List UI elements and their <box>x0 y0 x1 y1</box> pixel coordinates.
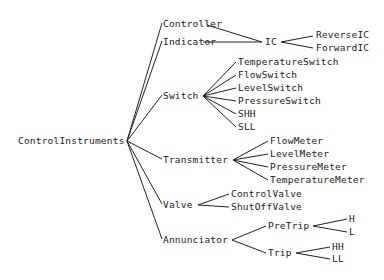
node-l: L <box>349 226 355 237</box>
node-valve: Valve <box>163 199 193 210</box>
edge-trip-ll <box>296 253 330 259</box>
diagram-canvas: ControlInstruments ControllerIndicatorSw… <box>0 0 384 280</box>
node-levelmeter: LevelMeter <box>270 148 329 159</box>
node-pretrip: PreTrip <box>268 220 310 231</box>
node-sll: SLL <box>238 121 256 132</box>
node-pressuremeter: PressureMeter <box>270 161 347 172</box>
node-forwardic: ForwardIC <box>316 42 369 53</box>
node-indicator: Indicator <box>163 36 216 47</box>
edge-switch-levelswitch <box>203 88 236 96</box>
node-levelswitch: LevelSwitch <box>238 82 303 93</box>
node-ll: LL <box>332 253 344 264</box>
node-switch: Switch <box>163 90 199 101</box>
tree-diagram: ControlInstruments ControllerIndicatorSw… <box>0 0 384 280</box>
node-transmitter: Transmitter <box>163 154 228 165</box>
node-temperatureswitch: TemperatureSwitch <box>238 56 339 67</box>
node-shutoffvalve: ShutOffValve <box>231 201 302 212</box>
node-hh: HH <box>332 241 344 252</box>
edge-annunciator-trip <box>232 240 266 253</box>
node-trip: Trip <box>268 247 292 258</box>
edge-ic-forwardic <box>281 42 313 48</box>
node-pressureswitch: PressureSwitch <box>238 95 321 106</box>
node-controller: Controller <box>163 18 222 29</box>
node-controlvalve: ControlValve <box>231 188 302 199</box>
node-annunciator: Annunciator <box>163 234 228 245</box>
edge-pretrip-l <box>313 226 347 232</box>
edge-valve-shutoffvalve <box>198 205 229 207</box>
edge-annunciator-pretrip <box>232 226 266 240</box>
edge-ic-reverseic <box>281 36 313 42</box>
node-h: H <box>349 213 355 224</box>
edge-pretrip-h <box>313 219 347 226</box>
node-shh: SHH <box>238 108 256 119</box>
edge-root-indicator <box>127 41 162 141</box>
node-flowmeter: FlowMeter <box>270 135 323 146</box>
edge-root-controller <box>127 23 162 141</box>
node-temperaturemeter: TemperatureMeter <box>270 174 365 185</box>
edge-switch-temperatureswitch <box>203 62 236 96</box>
node-root-controlinstruments: ControlInstruments <box>18 135 125 146</box>
edge-root-annunciator <box>127 141 162 239</box>
edge-root-switch <box>127 95 162 141</box>
node-reverseic: ReverseIC <box>316 29 369 40</box>
edge-switch-flowswitch <box>203 75 236 96</box>
edge-trip-hh <box>296 247 330 253</box>
node-ic: IC <box>265 36 277 47</box>
node-flowswitch: FlowSwitch <box>238 69 297 80</box>
edge-valve-controlvalve <box>198 194 229 205</box>
